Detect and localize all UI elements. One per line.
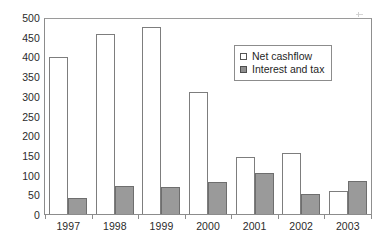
bar-group: [185, 19, 232, 214]
y-tick-label: 150: [0, 151, 40, 162]
bar: [236, 157, 255, 214]
scan-speck-icon: [356, 12, 363, 17]
x-tick-mark: [371, 215, 372, 219]
bar: [255, 173, 274, 214]
x-tick-mark: [231, 215, 232, 219]
x-tick-label: 2002: [278, 221, 325, 232]
x-tick-mark: [45, 215, 46, 219]
x-tick-label: 1998: [92, 221, 139, 232]
bar: [301, 194, 320, 214]
bar: [68, 198, 87, 214]
y-tick-label: 350: [0, 72, 40, 83]
bar: [49, 57, 68, 214]
x-tick-mark: [324, 215, 325, 219]
x-tick-mark: [185, 215, 186, 219]
chart-legend: Net cashflowInterest and tax: [234, 45, 332, 81]
bar-group: [92, 19, 139, 214]
x-tick-mark: [138, 215, 139, 219]
legend-item: Interest and tax: [240, 63, 324, 76]
x-tick-label: 2003: [324, 221, 371, 232]
legend-swatch-hollow-icon: [240, 53, 247, 60]
y-tick-label: 400: [0, 52, 40, 63]
x-tick-mark: [92, 215, 93, 219]
y-tick-label: 450: [0, 32, 40, 43]
y-tick-label: 0: [0, 210, 40, 221]
bar: [96, 34, 115, 214]
y-tick-label: 300: [0, 92, 40, 103]
legend-label: Net cashflow: [252, 51, 312, 62]
bar: [161, 187, 180, 214]
x-axis: 1997199819992000200120022003: [45, 221, 371, 232]
x-tick-mark: [278, 215, 279, 219]
y-tick-label: 200: [0, 131, 40, 142]
y-tick-label: 500: [0, 13, 40, 24]
x-tick-label: 1999: [138, 221, 185, 232]
bar: [282, 153, 301, 214]
y-tick-label: 250: [0, 111, 40, 122]
x-tick-label: 1997: [45, 221, 92, 232]
bar: [208, 182, 227, 214]
y-axis: 050100150200250300350400450500: [0, 18, 40, 215]
y-tick-label: 100: [0, 170, 40, 181]
x-tick-label: 2000: [185, 221, 232, 232]
bar: [329, 191, 348, 214]
legend-item: Net cashflow: [240, 50, 324, 63]
x-tick-label: 2001: [231, 221, 278, 232]
bar-chart: 050100150200250300350400450500 199719981…: [0, 0, 383, 246]
legend-label: Interest and tax: [252, 64, 324, 75]
bar: [189, 92, 208, 214]
bar: [142, 27, 161, 214]
legend-swatch-filled-icon: [240, 66, 247, 73]
bar: [348, 181, 367, 214]
bar: [115, 186, 134, 214]
bar-group: [45, 19, 92, 214]
bar-group: [138, 19, 185, 214]
y-tick-label: 50: [0, 190, 40, 201]
